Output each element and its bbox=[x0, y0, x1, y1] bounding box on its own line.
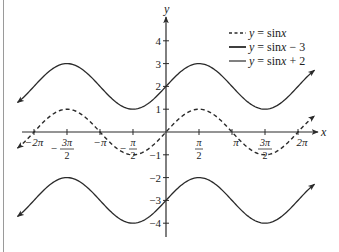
legend-label-1: y = sinx − 3 bbox=[248, 40, 305, 54]
x-tick-label: π bbox=[233, 136, 239, 148]
fraction-numerator: 3π bbox=[259, 137, 271, 148]
x-tick-label: 3π2 bbox=[258, 137, 272, 161]
y-tick-label: 1 bbox=[156, 103, 162, 115]
tick-text: −2π bbox=[25, 136, 44, 148]
chart-figure: xy4321−1−2−3−4−2π3π2−−ππ2−π2π3π22πy = si… bbox=[0, 0, 339, 252]
x-tick-label: π2− bbox=[120, 137, 137, 161]
fraction-numerator: 3π bbox=[61, 137, 73, 148]
x-tick-label: −2π bbox=[25, 136, 44, 148]
x-tick-label: 2π bbox=[296, 136, 308, 148]
fraction-sign: − bbox=[51, 142, 57, 154]
legend-label-0: y = sinx bbox=[248, 26, 287, 40]
y-axis-label: y bbox=[163, 2, 170, 16]
y-tick-label: 2 bbox=[156, 80, 162, 92]
x-axis-label: x bbox=[320, 125, 327, 139]
plot-area: xy4321−1−2−3−4−2π3π2−−ππ2−π2π3π22πy = si… bbox=[0, 0, 339, 252]
y-tick-label: −2 bbox=[149, 172, 161, 184]
y-tick-label: 4 bbox=[156, 35, 162, 47]
y-tick-label: 3 bbox=[156, 58, 162, 70]
x-tick-label: 3π2− bbox=[51, 137, 74, 161]
tick-text: 2π bbox=[296, 136, 308, 148]
tick-text: π bbox=[233, 136, 239, 148]
fraction-denominator: 2 bbox=[130, 150, 135, 161]
y-tick-label: −4 bbox=[149, 217, 161, 229]
fraction-denominator: 2 bbox=[64, 150, 69, 161]
fraction-denominator: 2 bbox=[263, 150, 268, 161]
x-tick-label: π2 bbox=[195, 137, 203, 161]
y-tick-label: −1 bbox=[149, 149, 161, 161]
fraction-numerator: π bbox=[130, 137, 136, 148]
legend: y = sinxy = sinx − 3y = sinx + 2 bbox=[229, 26, 305, 68]
legend-label-2: y = sinx + 2 bbox=[248, 54, 305, 68]
fraction-numerator: π bbox=[196, 137, 202, 148]
y-tick-label: −3 bbox=[149, 194, 161, 206]
fraction-denominator: 2 bbox=[197, 150, 202, 161]
